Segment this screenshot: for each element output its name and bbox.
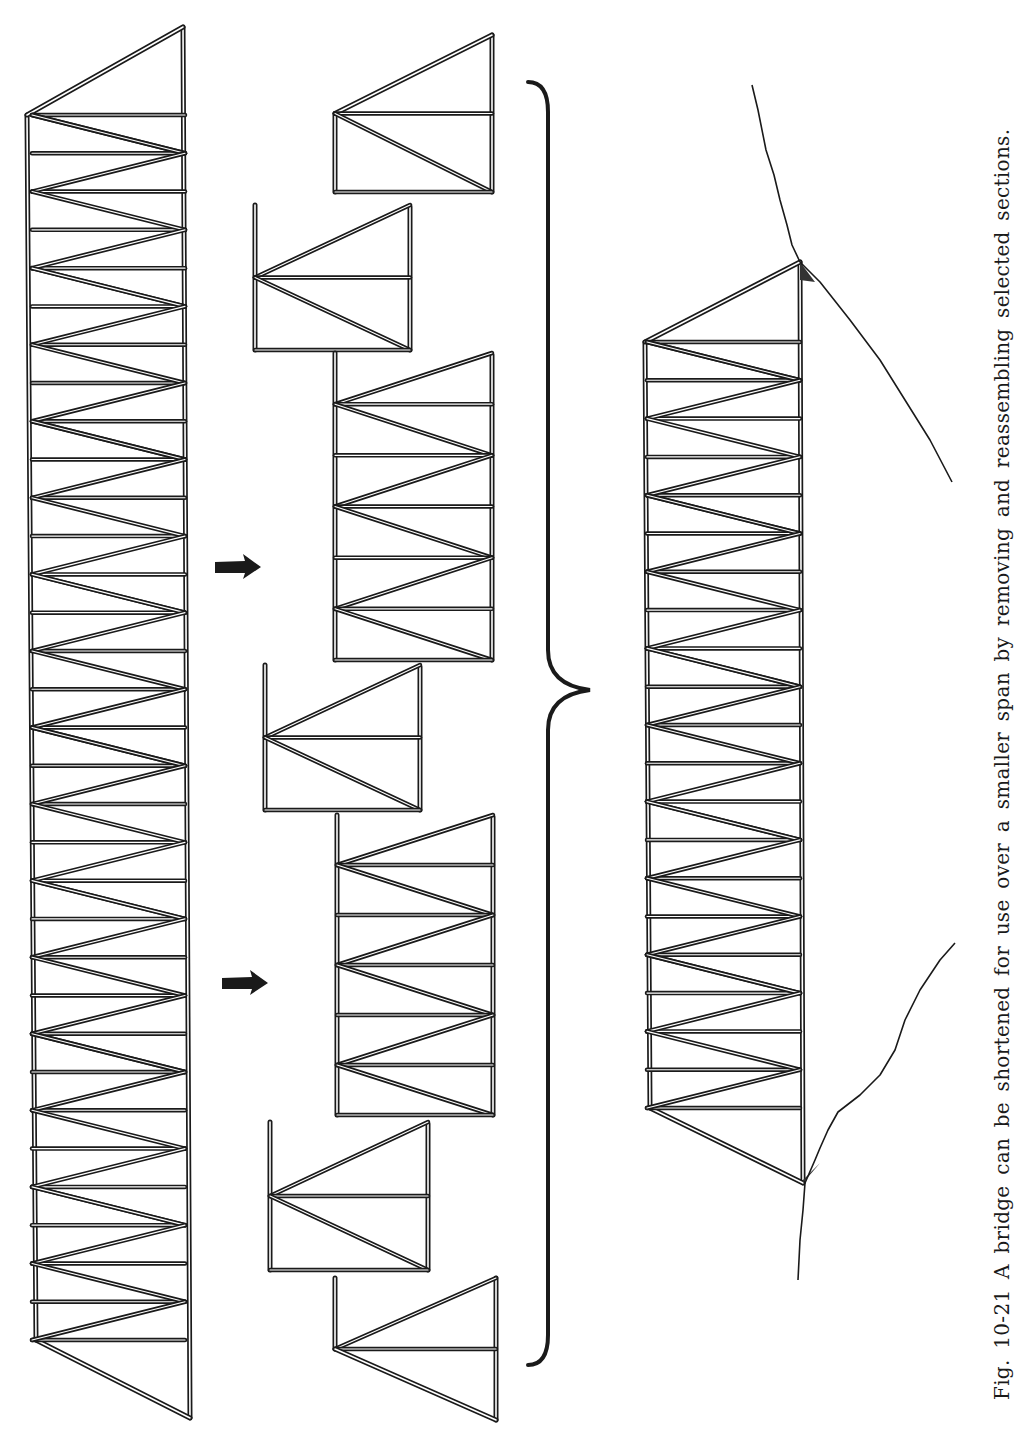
- end-section-top: [335, 35, 492, 192]
- arrow-2-icon: [222, 970, 268, 995]
- truss-sections: [255, 35, 496, 1420]
- middle-section-2: [337, 815, 493, 1115]
- removed-section-2: [265, 665, 420, 810]
- figure-caption: Fig. 10-21 A bridge can be shortened for…: [990, 129, 1014, 1400]
- reassembled-bridge: [645, 262, 820, 1183]
- removed-section-1: [255, 205, 410, 350]
- arrow-1-icon: [215, 554, 261, 579]
- upper-bank: [752, 85, 952, 482]
- end-section-bottom: [335, 1278, 496, 1420]
- middle-section-1: [335, 353, 492, 660]
- removed-section-3: [270, 1122, 428, 1270]
- curly-brace: [528, 82, 590, 1365]
- arrows: [215, 554, 268, 995]
- long-truss: [27, 27, 190, 1418]
- lower-bank: [798, 943, 955, 1280]
